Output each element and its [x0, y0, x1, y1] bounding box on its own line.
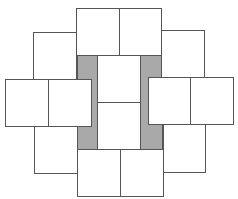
center-top-tile [98, 56, 141, 103]
lower-right-tile [164, 125, 206, 173]
right-outer-tile [191, 78, 234, 125]
tiles [6, 9, 234, 197]
bottom-right-tile [121, 150, 164, 197]
left-outer-tile [6, 80, 49, 127]
right-inner-tile [149, 78, 191, 125]
upper-right-tile [162, 31, 205, 79]
center-bottom-tile [98, 103, 141, 150]
left-inner-tile [49, 80, 92, 127]
bottom-left-tile [78, 150, 121, 197]
top-left-tile [77, 9, 120, 56]
tiling-diagram [0, 0, 238, 199]
top-right-tile [120, 9, 162, 56]
lower-left-tile [35, 127, 78, 174]
upper-left-tile [34, 33, 77, 80]
